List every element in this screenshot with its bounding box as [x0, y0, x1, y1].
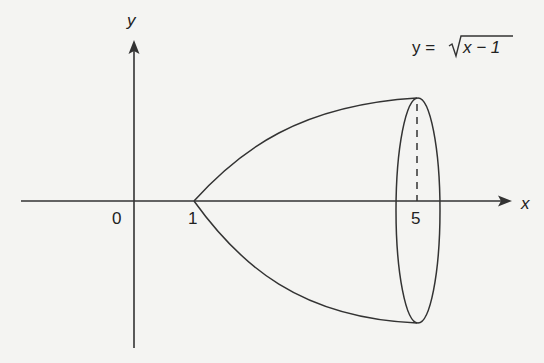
equation-lhs: y =	[412, 38, 435, 57]
diagram-canvas: y x 0 1 5 y = x − 1	[0, 0, 544, 363]
equation-radicand: x − 1	[462, 38, 500, 57]
tick-label-5: 5	[411, 209, 420, 228]
x-axis-label: x	[520, 194, 530, 213]
upper-curve	[194, 98, 417, 201]
y-axis-label: y	[126, 11, 137, 30]
origin-label: 0	[112, 209, 121, 228]
tick-label-1: 1	[188, 209, 197, 228]
equation-label: y = x − 1	[412, 36, 513, 57]
lower-curve	[194, 201, 417, 323]
